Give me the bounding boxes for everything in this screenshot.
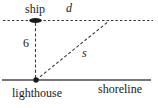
sight-line [36,21,109,80]
lighthouse-marker-icon [33,77,38,82]
lighthouse-label: lighthouse [12,87,62,99]
distance-d-label: d [66,2,72,14]
shoreline-label: shoreline [98,83,142,95]
height-6-label: 6 [23,37,29,49]
sight-s-label: s [82,47,87,59]
ship-marker-icon [29,18,41,23]
ship-lighthouse-diagram: ship d 6 s lighthouse shoreline [0,0,158,108]
ship-label: ship [25,3,45,15]
